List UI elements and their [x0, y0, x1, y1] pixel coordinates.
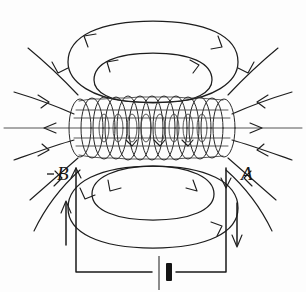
field-loop-top-inner	[94, 53, 212, 103]
field-loop-bottom-inner	[92, 166, 214, 220]
current-arrow-right-down	[232, 203, 242, 247]
field-loop-top-outer	[68, 21, 238, 103]
terminal-label-b: B	[47, 163, 69, 184]
solenoid-loop-arrowheads	[126, 140, 193, 146]
terminal-label-a: A	[239, 163, 253, 184]
field-loop-bottom-outer	[68, 166, 238, 248]
label-b-text: B	[57, 163, 69, 184]
current-arrow-left-up	[61, 201, 71, 245]
battery-symbol	[159, 256, 172, 290]
label-a-text: A	[239, 163, 253, 184]
figure-canvas: B A	[0, 0, 306, 292]
field-lines-right	[226, 48, 292, 231]
physics-figure-solenoid-magnetic-field: B A	[0, 0, 306, 292]
